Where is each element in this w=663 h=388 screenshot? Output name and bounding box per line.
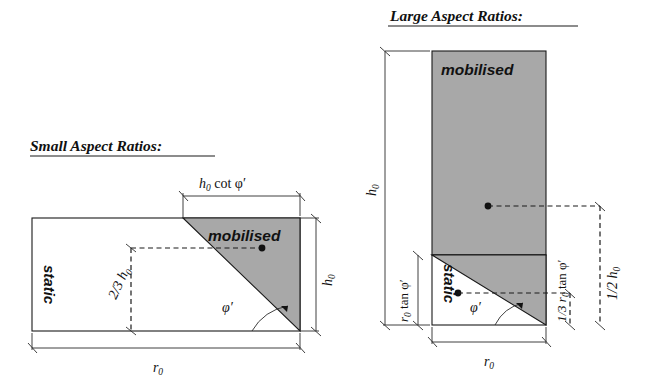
dim-rest-tan-phi: tan φ′ <box>396 279 411 312</box>
dim-sub-r0-bottom: 0 <box>158 367 163 377</box>
dimension-label-wedge-height-large: r0 tan φ′ <box>396 279 413 322</box>
dimension-label-bottom-small: r0 <box>153 360 163 377</box>
dimension-tick-block-centroid-bottom-large <box>595 321 605 330</box>
dimension-label-right-small: h0 <box>320 274 337 286</box>
mobilised-block-large <box>432 51 546 255</box>
dim-text-h0-right: h <box>320 279 335 286</box>
figure-container: Small Aspect Ratios: mobilised static 2/… <box>0 0 663 388</box>
svg-text:2/3 h0: 2/3 h0 <box>105 265 135 302</box>
svg-text:1/3 r0 tan φ′: 1/3 r0 tan φ′ <box>554 259 571 322</box>
panel-title-large: Large Aspect Ratios: <box>389 7 523 24</box>
region-label-static-large: static <box>441 264 458 304</box>
dim-rest-13-tan-phi: tan φ′ <box>554 259 569 292</box>
panel-title-small: Small Aspect Ratios: <box>30 137 162 154</box>
panel-small-aspect-ratios: Small Aspect Ratios: mobilised static 2/… <box>28 137 337 377</box>
dimension-label-block-centroid-large: 1/2 h0 <box>605 267 622 300</box>
dim-text-h: h <box>199 176 206 191</box>
svg-text:r0 tan φ′: r0 tan φ′ <box>396 279 413 322</box>
dimension-label-bottom-large: r0 <box>484 354 494 371</box>
region-label-static-small: static <box>41 265 58 305</box>
dim-sub-h0-left-large: 0 <box>371 184 381 189</box>
angle-label-large: φ′ <box>470 300 482 315</box>
dim-sub-h0-right: 0 <box>327 274 337 279</box>
soil-wedge-diagram: Small Aspect Ratios: mobilised static 2/… <box>0 0 663 388</box>
dim-text-h0-left-large: h <box>364 189 379 196</box>
region-label-mobilised-large: mobilised <box>441 61 514 78</box>
dim-sub-12-h0: 0 <box>612 267 622 272</box>
dim-rest-cot-phi: cot φ′ <box>211 176 246 191</box>
region-label-mobilised-small: mobilised <box>208 227 281 244</box>
dimension-label-top-small: h0 cot φ′ <box>199 176 246 193</box>
dim-sub-r0-bottom-large: 0 <box>489 361 494 371</box>
dim-text-12-h0: 1/2 h <box>605 272 620 300</box>
panel-large-aspect-ratios: Large Aspect Ratios: mobilised static <box>364 7 622 371</box>
dimension-label-left-large: h0 <box>364 184 381 196</box>
dimension-label-wedge-centroid-large: 1/3 r0 tan φ′ <box>554 259 571 322</box>
angle-label-small: φ′ <box>222 300 234 315</box>
svg-text:h0: h0 <box>320 274 337 286</box>
dim-text-13-r0-tan: 1/3 r <box>554 296 569 322</box>
centroid-dot-small <box>259 245 266 252</box>
svg-text:1/2 h0: 1/2 h0 <box>605 267 622 300</box>
dimension-label-centroid-height-small: 2/3 h0 <box>105 265 135 302</box>
svg-text:h0: h0 <box>364 184 381 196</box>
